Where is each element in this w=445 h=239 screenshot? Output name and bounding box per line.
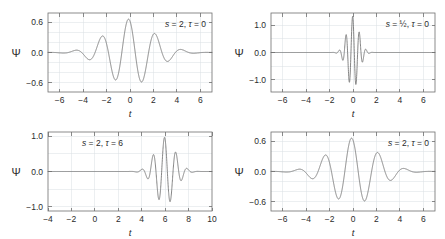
x-axis-tick-label: 10 — [207, 214, 217, 224]
y-axis-label: Ψ — [234, 47, 243, 59]
x-axis-tick-label: −4 — [301, 214, 311, 224]
x-axis-tick-label: −2 — [102, 95, 112, 105]
chart-panel-bottom-right: −6−4−20246−0.60.00.6tΨs = 2, τ = 0 — [223, 119, 445, 238]
x-axis-tick-label: 4 — [397, 95, 402, 105]
y-axis-tick-label: 0.6 — [254, 136, 266, 146]
panel-annotation: s = 2, τ = 0 — [388, 138, 429, 148]
chart-svg-top-left: −6−4−20246−0.60.00.6tΨs = 2, τ = 0 — [0, 0, 222, 119]
chart-panel-top-left: −6−4−20246−0.60.00.6tΨs = 2, τ = 0 — [0, 0, 222, 119]
chart-panel-bottom-left: −4−20246810−1.00.01.0tΨs = 2, τ = 6 — [0, 119, 222, 238]
y-axis-tick-label: 0.0 — [254, 48, 266, 58]
chart-panel-top-right: −6−4−20246−1.00.01.0tΨs = ½, τ = 0 — [223, 0, 445, 119]
x-axis-tick-label: −6 — [278, 214, 288, 224]
y-axis-tick-label: −0.6 — [26, 78, 43, 88]
x-axis-tick-label: 2 — [116, 214, 121, 224]
x-axis-tick-label: −4 — [43, 214, 53, 224]
x-axis-tick-label: 0 — [351, 95, 356, 105]
y-axis-tick-label: −1.0 — [249, 75, 266, 85]
x-axis-tick-label: 6 — [421, 214, 426, 224]
x-axis-tick-label: 0 — [128, 95, 133, 105]
panel-annotation: s = 2, τ = 0 — [165, 19, 206, 29]
x-axis-label: t — [129, 227, 132, 238]
x-axis-tick-label: −2 — [67, 214, 77, 224]
chart-svg-top-right: −6−4−20246−1.00.01.0tΨs = ½, τ = 0 — [223, 0, 445, 119]
y-axis-tick-label: 1.0 — [31, 131, 43, 141]
x-axis-tick-label: 6 — [421, 95, 426, 105]
x-axis-label: t — [352, 108, 355, 119]
y-axis-label: Ψ — [11, 47, 20, 59]
x-axis-tick-label: −6 — [278, 95, 288, 105]
y-axis-tick-label: −1.0 — [26, 202, 43, 212]
x-axis-label: t — [352, 227, 355, 238]
x-axis-tick-label: 6 — [163, 214, 168, 224]
x-axis-tick-label: 4 — [139, 214, 144, 224]
x-axis-label: t — [129, 108, 132, 119]
wavelet-figure: −6−4−20246−0.60.00.6tΨs = 2, τ = 0 −6−4−… — [0, 0, 445, 239]
x-axis-tick-label: 6 — [198, 95, 203, 105]
chart-svg-bottom-left: −4−20246810−1.00.01.0tΨs = 2, τ = 6 — [0, 119, 222, 238]
y-axis-label: Ψ — [11, 166, 20, 178]
y-axis-tick-label: 0.6 — [31, 17, 43, 27]
y-axis-tick-label: 0.0 — [31, 48, 43, 58]
x-axis-tick-label: −4 — [301, 95, 311, 105]
x-axis-tick-label: 2 — [151, 95, 156, 105]
chart-svg-bottom-right: −6−4−20246−0.60.00.6tΨs = 2, τ = 0 — [223, 119, 445, 238]
x-axis-tick-label: 2 — [374, 214, 379, 224]
panel-annotation: s = 2, τ = 6 — [82, 138, 123, 148]
panel-annotation: s = ½, τ = 0 — [386, 19, 430, 29]
x-axis-tick-label: 4 — [397, 214, 402, 224]
y-axis-tick-label: 0.0 — [31, 167, 43, 177]
y-axis-tick-label: −0.6 — [249, 197, 266, 207]
x-axis-tick-label: 4 — [174, 95, 179, 105]
wavelet-curve — [48, 137, 212, 201]
x-axis-tick-label: 0 — [351, 214, 356, 224]
y-axis-tick-label: 1.0 — [254, 20, 266, 30]
y-axis-tick-label: 0.0 — [254, 167, 266, 177]
y-axis-label: Ψ — [234, 166, 243, 178]
x-axis-tick-label: −2 — [325, 214, 335, 224]
x-axis-tick-label: 8 — [186, 214, 191, 224]
x-axis-tick-label: −2 — [325, 95, 335, 105]
x-axis-tick-label: −4 — [78, 95, 88, 105]
x-axis-tick-label: 0 — [92, 214, 97, 224]
x-axis-tick-label: −6 — [55, 95, 65, 105]
x-axis-tick-label: 2 — [374, 95, 379, 105]
